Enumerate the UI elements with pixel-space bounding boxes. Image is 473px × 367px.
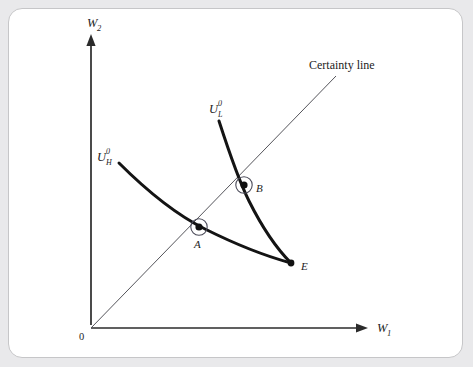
- low-risk-curve-label-subscript: L: [217, 110, 223, 119]
- point-b-label: B: [256, 182, 263, 194]
- x-axis-arrowhead: [356, 323, 368, 332]
- point-a-label: A: [193, 238, 201, 250]
- high-risk-curve-label-superscript: 0: [106, 147, 110, 156]
- figure-card: E A B W 2 W 1 0 U L 0 U H 0 Certainty li…: [8, 8, 463, 358]
- high-risk-indifference-curve: [119, 163, 291, 263]
- origin-label: 0: [79, 331, 84, 342]
- low-risk-curve-label-superscript: 0: [218, 99, 222, 108]
- y-axis-arrowhead: [86, 34, 95, 46]
- x-axis-label-subscript: 1: [387, 328, 391, 338]
- y-axis-label-subscript: 2: [97, 23, 102, 33]
- point-a-dot: [195, 223, 202, 230]
- high-risk-curve-label-subscript: H: [105, 158, 113, 167]
- indifference-curve-diagram: E A B W 2 W 1 0 U L 0 U H 0 Certainty li…: [9, 9, 463, 358]
- point-e-label: E: [300, 260, 308, 272]
- certainty-line-label: Certainty line: [309, 58, 375, 72]
- point-e-dot: [288, 260, 295, 267]
- point-b-dot: [240, 181, 247, 188]
